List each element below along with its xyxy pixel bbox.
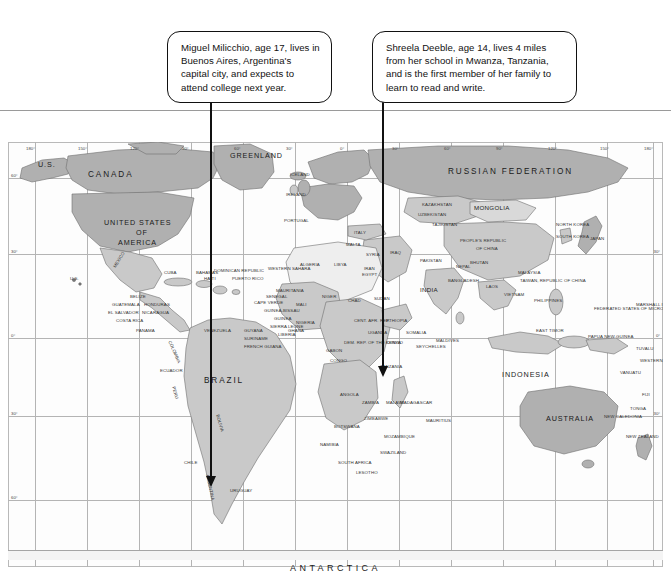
map-label-el-salvador: EL SALVADOR [108,310,139,315]
longitude-label: 150° [78,146,87,151]
map-label-mauritius: MAURITIUS [426,418,451,423]
map-label-puerto-rico: PUERTO RICO [232,276,263,281]
map-label-canada: CANADA [88,170,134,179]
map-label-portugal: PORTUGAL [284,218,309,223]
map-label-new-caledonia: NEW CALEDONIA [604,414,642,419]
map-label-tajikistan: TAJIKISTAN [432,222,457,227]
map-label-east-timor: EAST TIMOR [536,328,564,333]
map-label-guinea: GUINEA [274,316,291,321]
map-label-vietnam: VIETNAM [504,292,524,297]
map-label-ireland: IRELAND [286,192,306,197]
leader-line-tanzania [382,99,384,369]
map-label-tuvalu: TUVALU [636,346,654,351]
map-label-philippines: PHILIPPINES [534,298,562,303]
map-label-hawaii-us: U.S. [70,276,79,281]
arrowhead-tanzania [378,366,388,377]
map-label-turkey: ITALY [354,230,366,235]
map-label-australia: AUSTRALIA [546,414,594,423]
map-label-guinea-bissau: GUINEA-BISSAU [264,308,300,313]
latitude-label: 60° [11,495,18,500]
map-label-south-africa: SOUTH AFRICA [338,460,372,465]
latitude-label: 60° [11,173,18,178]
map-label-usa-line3: AMERICA [118,238,157,247]
longitude-label: 180° [26,146,35,151]
map-label-cape-verde: CAPE VERDE [254,300,283,305]
map-label-madagascar: MADAGASCAR [400,400,432,405]
map-label-bhutan: BHUTAN [470,260,488,265]
longitude-label: 60° [444,146,451,151]
header-divider [0,110,671,111]
map-label-mozambique: MOZAMBIQUE [384,434,415,439]
map-label-malaysia: MALAYSIA [518,270,540,275]
map-label-seychelles: SEYCHELLES [416,344,446,349]
map-label-libya: LIBYA [334,262,347,267]
map-label-iraq: SYRIA [366,252,380,257]
map-label-zimbabwe: ZIMBABWE [364,416,388,421]
longitude-label: 150° [600,146,609,151]
latitude-label: 30° [654,249,661,254]
map-label-japan: JAPAN [590,236,604,241]
latitude-label: 0° [11,333,15,338]
callout-argentina-text: Miguel Milicchio, age 17, lives in Bueno… [181,42,320,93]
landmass-shapes [8,142,663,567]
map-label-honduras: HONDURAS [144,302,170,307]
longitude-label: 30° [286,146,293,151]
map-label-nepal: NEPAL [456,264,471,269]
map-label-vanuatu: VANUATU [620,370,641,375]
longitude-label: 180° [644,146,653,151]
map-label-suriname: SURINAME [244,336,268,341]
map-label-car: CENT. AFR. REP. [354,318,390,323]
longitude-label: 120° [548,146,557,151]
callout-tanzania: Shreela Deeble, age 14, lives 4 miles fr… [372,31,577,103]
map-label-taiwan: TAIWAN, REPUBLIC OF CHINA [520,278,586,283]
map-label-usa-line1: UNITED STATES [104,218,171,227]
longitude-label: 90° [182,146,189,151]
map-label-south-korea: SOUTH KOREA [556,234,589,239]
map-label-mauritania: MAURITANIA [276,288,304,293]
map-label-bangladesh: BANGLADESH [448,278,479,283]
map-label-angola: ANGOLA [340,392,359,397]
map-label-maldives: MALDIVES [436,338,459,343]
map-label-syria: MALTA [346,242,361,247]
latitude-label: 30° [11,411,18,416]
map-label-french-guiana: FRENCH GUIANA [244,344,282,349]
map-label-dr-congo: DEM. REP. OF THE CONGO [344,340,403,345]
map-label-lesotho: LESOTHO [356,470,378,475]
map-label-algeria: ALGERIA [300,262,320,267]
longitude-label: 60° [234,146,241,151]
latitude-label: 30° [11,249,18,254]
map-label-sierra-leone: SIERRA LEONE [270,324,303,329]
map-label-niger: NIGER [322,294,336,299]
callout-argentina: Miguel Milicchio, age 17, lives in Bueno… [167,31,332,103]
illiteracy-world-map-figure: Miguel Milicchio, age 17, lives in Bueno… [0,0,671,585]
map-label-indonesia: INDONESIA [502,370,550,379]
map-label-ecuador: ECUADOR [160,368,183,373]
map-label-kazakhstan: KAZAKHSTAN [422,202,452,207]
map-label-mongolia: MONGOLIA [474,204,510,211]
map-label-dominican-rep: DOMINICAN REPUBLIC [214,268,264,273]
map-label-india: INDIA [420,286,438,293]
map-label-png: PAPUA NEW GUINEA [588,334,633,339]
map-label-micronesia: FEDERATED STATES OF MICRONESIA [594,306,663,311]
map-label-pakistan: PAKISTAN [420,258,442,263]
map-label-mali: MALI [296,302,307,307]
map-label-iceland: ICELAND [290,172,310,177]
callout-tanzania-text: Shreela Deeble, age 14, lives 4 miles fr… [386,42,551,93]
map-label-panama: PANAMA [136,328,155,333]
map-label-greenland: GREENLAND [230,151,283,160]
map-label-uzbekistan: UZBEKISTAN [418,212,446,217]
map-label-belize: BELIZE [130,294,146,299]
map-label-costa-rica: COSTA RICA [116,318,143,323]
latitude-label: 30° [654,411,661,416]
map-label-chile: CHILE [184,460,197,465]
map-label-guyana: GUYANA [244,328,263,333]
map-label-uganda: UGANDA [368,330,387,335]
latitude-label: 0° [656,333,660,338]
map-label-gabon: GABON [326,348,342,353]
map-label-fiji: FIJI [642,392,650,397]
map-label-iran: IRAQ [390,250,401,255]
map-label-cuba: CUBA [164,270,177,275]
map-label-guatemala: GUATEMALA [112,302,140,307]
map-label-antarctica: ANTARCTICA [0,563,671,573]
map-label-congo: CONGO [330,358,347,363]
